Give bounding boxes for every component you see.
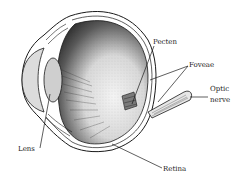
label-foveae: Foveae xyxy=(189,61,214,69)
lens xyxy=(44,58,62,102)
label-nerve: nerve xyxy=(210,96,230,104)
label-lens: Lens xyxy=(18,145,35,153)
retina-leader xyxy=(112,144,162,168)
eye-diagram: Pecten Foveae Optic nerve Lens Retina xyxy=(0,0,247,182)
label-pecten: Pecten xyxy=(153,38,177,46)
label-retina: Retina xyxy=(163,165,186,173)
label-optic: Optic xyxy=(210,85,229,93)
